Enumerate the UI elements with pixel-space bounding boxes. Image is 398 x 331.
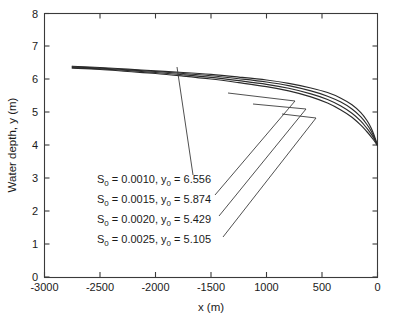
x-tick-label: -1500 <box>197 281 225 293</box>
x-tick-label: -3000 <box>30 281 58 293</box>
y-tick-label: 4 <box>32 139 38 151</box>
y-tick-label: 7 <box>32 40 38 52</box>
y-axis-title: Water depth, y (m) <box>6 97 18 192</box>
y-tick-label: 1 <box>32 238 38 250</box>
y-tick-label: 5 <box>32 106 38 118</box>
x-axis-title: x (m) <box>198 301 224 313</box>
x-tick-label: -2500 <box>86 281 114 293</box>
y-tick-label: 6 <box>32 73 38 85</box>
y-tick-labels: 0 1 2 3 4 5 6 7 8 <box>32 8 38 283</box>
x-tick-label: -2000 <box>141 281 169 293</box>
backwater-profile-figure: 0 1 2 3 4 5 6 7 8 -3000 -2500 -2000 -150… <box>0 0 398 331</box>
x-tick-label: 1000 <box>254 281 278 293</box>
y-tick-label: 3 <box>32 172 38 184</box>
chart-svg: 0 1 2 3 4 5 6 7 8 -3000 -2500 -2000 -150… <box>0 0 398 331</box>
x-tick-label: 0 <box>374 281 380 293</box>
y-tick-label: 8 <box>32 8 38 20</box>
x-tick-label: 500 <box>313 281 331 293</box>
y-tick-label: 2 <box>32 205 38 217</box>
